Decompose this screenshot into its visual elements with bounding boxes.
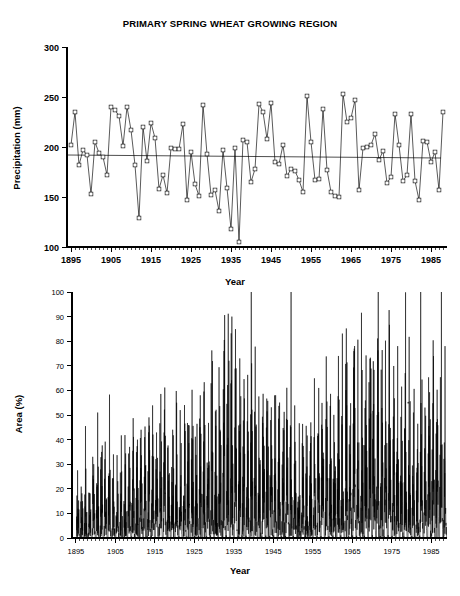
area-x-tick-label: 1975: [383, 547, 400, 556]
precipitation-data-point: [197, 194, 201, 198]
precipitation-data-point: [245, 140, 249, 144]
precipitation-data-point: [221, 148, 225, 152]
precipitation-data-point: [277, 162, 281, 166]
precipitation-data-point: [237, 240, 241, 244]
precipitation-data-point: [73, 110, 77, 114]
precipitation-data-point: [381, 149, 385, 153]
precipitation-data-point: [285, 174, 289, 178]
precipitation-data-point: [313, 178, 317, 182]
area-x-tick-label: 1955: [304, 547, 321, 556]
precipitation-data-point: [177, 147, 181, 151]
precipitation-data-point: [417, 198, 421, 202]
precipitation-data-point: [329, 190, 333, 194]
precipitation-data-point: [401, 179, 405, 183]
precipitation-chart-panel: PRIMARY SPRING WHEAT GROWING REGION Prec…: [0, 0, 460, 296]
precipitation-data-point: [117, 114, 121, 118]
precipitation-data-point: [305, 94, 309, 98]
precipitation-data-point: [145, 159, 149, 163]
precipitation-data-point: [169, 146, 173, 150]
precipitation-y-tick-label: 300: [44, 43, 59, 53]
precipitation-data-point: [425, 140, 429, 144]
precipitation-data-point: [409, 112, 413, 116]
precipitation-data-point: [101, 155, 105, 159]
precipitation-data-point: [441, 110, 445, 114]
precipitation-data-point: [137, 216, 141, 220]
precipitation-data-point: [93, 140, 97, 144]
precipitation-chart-svg: PRIMARY SPRING WHEAT GROWING REGION Prec…: [0, 0, 460, 296]
precipitation-data-point: [421, 139, 425, 143]
area-x-tick-label: 1985: [423, 547, 440, 556]
precipitation-data-point: [373, 132, 377, 136]
area-series-line: [76, 292, 447, 538]
precipitation-data-point: [81, 148, 85, 152]
area-y-tick-label: 40: [56, 436, 64, 445]
precipitation-axes: 1001502002503001895190519151925193519451…: [44, 43, 447, 266]
precipitation-x-tick-label: 1965: [341, 255, 361, 265]
area-x-tick-label: 1935: [225, 547, 242, 556]
precipitation-data-point: [369, 143, 373, 147]
figure-container: PRIMARY SPRING WHEAT GROWING REGION Prec…: [0, 0, 460, 596]
precipitation-data-point: [209, 193, 213, 197]
precipitation-data-point: [89, 192, 93, 196]
precipitation-data-point: [229, 227, 233, 231]
area-y-axis-title: Area (%): [13, 395, 24, 434]
precipitation-data-point: [317, 177, 321, 181]
precipitation-data-point: [105, 173, 109, 177]
precipitation-data-point: [353, 98, 357, 102]
precipitation-data-point: [361, 146, 365, 150]
precipitation-data-point: [333, 194, 337, 198]
precipitation-data-point: [233, 146, 237, 150]
area-x-tick-label: 1915: [147, 547, 164, 556]
area-y-tick-label: 10: [56, 509, 64, 518]
precipitation-data-point: [161, 173, 165, 177]
precipitation-data-point: [85, 153, 89, 157]
precipitation-data-point: [297, 178, 301, 182]
area-plot-area: [76, 292, 447, 538]
precipitation-data-point: [77, 163, 81, 167]
precipitation-data-point: [213, 188, 217, 192]
precipitation-data-point: [185, 198, 189, 202]
precipitation-data-point: [113, 108, 117, 112]
precipitation-data-point: [281, 143, 285, 147]
precipitation-data-point: [109, 105, 113, 109]
precipitation-data-point: [293, 169, 297, 173]
precipitation-y-tick-label: 250: [44, 93, 59, 103]
precipitation-data-point: [153, 136, 157, 140]
precipitation-data-point: [249, 180, 253, 184]
precipitation-data-point: [309, 140, 313, 144]
precipitation-x-tick-label: 1935: [221, 255, 241, 265]
precipitation-data-point: [125, 105, 129, 109]
precipitation-data-point: [429, 160, 433, 164]
precipitation-data-point: [365, 145, 369, 149]
precipitation-data-point: [225, 186, 229, 190]
area-y-tick-label: 100: [51, 288, 64, 297]
area-y-tick-label: 80: [56, 337, 64, 346]
precipitation-data-point: [157, 187, 161, 191]
precipitation-data-point: [165, 191, 169, 195]
precipitation-data-point: [321, 107, 325, 111]
precipitation-data-point: [405, 173, 409, 177]
precipitation-data-point: [377, 158, 381, 162]
precipitation-data-point: [337, 195, 341, 199]
precipitation-data-point: [201, 103, 205, 107]
precipitation-data-point: [129, 128, 133, 132]
precipitation-data-point: [173, 147, 177, 151]
area-y-tick-label: 60: [56, 386, 64, 395]
area-x-axis-title: Year: [230, 565, 250, 576]
precipitation-trend-line: [67, 155, 441, 158]
scan-speck: [407, 402, 409, 404]
precipitation-data-point: [301, 190, 305, 194]
precipitation-x-tick-label: 1905: [101, 255, 121, 265]
area-y-tick-label: 20: [56, 485, 64, 494]
precipitation-x-tick-label: 1895: [61, 255, 81, 265]
precipitation-data-point: [341, 92, 345, 96]
precipitation-data-point: [205, 152, 209, 156]
area-y-tick-label: 50: [56, 411, 64, 420]
precipitation-data-point: [345, 120, 349, 124]
precipitation-data-point: [257, 102, 261, 106]
precipitation-y-tick-label: 200: [44, 143, 59, 153]
precipitation-data-point: [133, 163, 137, 167]
area-y-tick-label: 70: [56, 362, 64, 371]
precipitation-x-tick-label: 1975: [381, 255, 401, 265]
area-x-tick-label: 1965: [344, 547, 361, 556]
